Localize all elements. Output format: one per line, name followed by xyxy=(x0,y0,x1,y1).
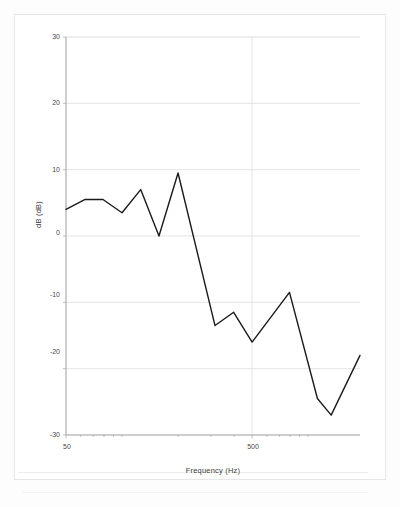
gridlines xyxy=(66,37,360,435)
scanned-page: 30 20 10 0 -10 -20 -30 50 500 dB (dB) Fr… xyxy=(0,0,400,507)
frequency-response-chart: 30 20 10 0 -10 -20 -30 50 500 dB (dB) Fr… xyxy=(0,0,400,507)
y-tick-label: 30 xyxy=(34,33,60,40)
x-tick-label: 500 xyxy=(238,443,268,450)
x-axis-title: Frequency (Hz) xyxy=(66,466,360,475)
data-series-line xyxy=(66,173,360,415)
y-tick-label: -10 xyxy=(34,291,60,298)
x-tick-label: 50 xyxy=(52,443,82,450)
y-tick-label: -20 xyxy=(34,348,60,355)
y-axis-title: dB (dB) xyxy=(34,175,43,255)
y-tick-label: -30 xyxy=(34,431,60,438)
x-axis-minor-ticks xyxy=(63,37,308,439)
y-tick-label: 20 xyxy=(34,99,60,106)
y-tick-label: 10 xyxy=(34,166,60,173)
plot-area xyxy=(0,0,400,507)
